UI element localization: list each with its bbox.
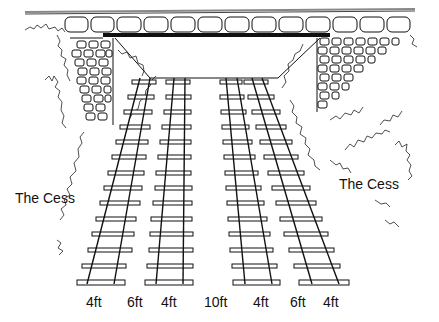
dimension-label: 6ft	[127, 294, 143, 310]
dimension-label: 4ft	[323, 294, 339, 310]
dimension-label: 6ft	[290, 294, 306, 310]
cess-right-label: The Cess	[339, 176, 399, 192]
track-4	[244, 78, 349, 285]
left-abutment	[72, 38, 113, 125]
bridge-deck-blocks	[65, 17, 410, 32]
cess-left-label: The Cess	[15, 190, 75, 206]
dimension-label: 4ft	[86, 294, 102, 310]
dimension-label: 4ft	[161, 294, 177, 310]
dimension-label: 10ft	[204, 294, 227, 310]
dimension-label: 4ft	[253, 294, 269, 310]
track-2	[145, 78, 193, 285]
diagram-drawing	[0, 0, 439, 322]
railway-diagram: The Cess The Cess 4ft 6ft 4ft 10ft 4ft 6…	[0, 0, 439, 322]
right-abutment	[317, 38, 399, 112]
track-3	[220, 78, 280, 285]
